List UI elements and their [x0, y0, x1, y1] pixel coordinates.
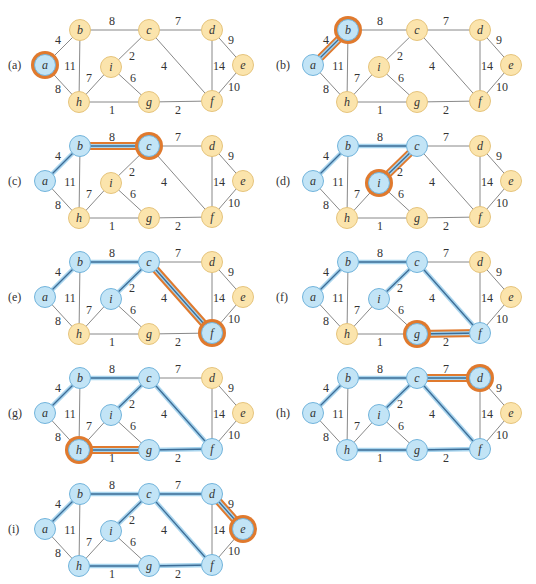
- node-g: g: [407, 440, 428, 461]
- edge-weight: 8: [109, 14, 115, 28]
- edge-weight: 14: [213, 59, 225, 73]
- edge-c-f: 4: [149, 262, 212, 333]
- node-a: a: [35, 519, 56, 540]
- edge-weight: 8: [377, 362, 383, 376]
- node-label: i: [377, 408, 380, 422]
- edge-weight: 2: [443, 103, 449, 117]
- edge-weight: 2: [397, 397, 403, 411]
- node-label: i: [109, 176, 112, 190]
- edge-weight: 14: [213, 291, 225, 305]
- node-label: c: [414, 371, 420, 385]
- edge-weight: 7: [86, 187, 92, 201]
- node-e: e: [501, 287, 522, 308]
- edge-weight: 6: [398, 71, 404, 85]
- node-label: h: [76, 95, 82, 109]
- edge-weight: 8: [55, 546, 61, 560]
- node-label: h: [76, 327, 82, 341]
- edge-weight: 4: [323, 33, 329, 47]
- node-i: i: [369, 57, 390, 78]
- edge-weight: 11: [64, 523, 76, 537]
- node-g: g: [403, 320, 431, 348]
- node-label: d: [477, 255, 484, 269]
- edge-weight: 2: [129, 513, 135, 527]
- edge-c-f: 4: [417, 378, 480, 449]
- node-a: a: [35, 171, 56, 192]
- node-b: b: [334, 16, 362, 44]
- edge-weight: 8: [55, 198, 61, 212]
- edge-c-f: 4: [417, 262, 480, 333]
- edge-weight: 7: [443, 130, 449, 144]
- node-d: d: [466, 364, 494, 392]
- edge-weight: 14: [481, 175, 493, 189]
- node-h: h: [337, 440, 358, 461]
- node-label: b: [345, 23, 351, 37]
- node-d: d: [470, 136, 491, 157]
- panel-label: (g): [8, 406, 22, 420]
- node-label: g: [146, 95, 152, 109]
- edge-weight: 6: [130, 419, 136, 433]
- node-a: a: [303, 171, 324, 192]
- node-g: g: [407, 92, 428, 113]
- node-label: i: [109, 524, 112, 538]
- edge-weight: 8: [109, 478, 115, 492]
- node-label: g: [414, 443, 420, 457]
- panel-label: (d): [276, 174, 290, 188]
- edge-weight: 8: [377, 130, 383, 144]
- edge-weight: 7: [175, 14, 181, 28]
- node-e: e: [233, 287, 254, 308]
- edge-weight: 6: [398, 187, 404, 201]
- edge-weight: 2: [175, 335, 181, 349]
- node-label: h: [344, 211, 350, 225]
- edge-weight: 14: [213, 523, 225, 537]
- edge-weight: 9: [496, 149, 502, 163]
- edge-weight: 10: [496, 80, 508, 94]
- edge-weight: 11: [332, 175, 344, 189]
- edge-weight: 2: [397, 281, 403, 295]
- node-g: g: [407, 208, 428, 229]
- edge-weight: 7: [175, 246, 181, 260]
- node-i: i: [365, 169, 393, 197]
- node-a: a: [303, 403, 324, 424]
- edge-weight: 1: [377, 335, 383, 349]
- node-label: a: [310, 406, 316, 420]
- panel-d: (d)48811724914102176abcdefghi: [276, 130, 522, 233]
- node-label: h: [76, 211, 82, 225]
- edge-weight: 14: [213, 175, 225, 189]
- edge-weight: 8: [55, 82, 61, 96]
- node-label: c: [146, 371, 152, 385]
- edge-weight: 8: [55, 314, 61, 328]
- node-b: b: [70, 368, 91, 389]
- edge-weight: 2: [443, 335, 449, 349]
- node-b: b: [70, 484, 91, 505]
- panel-label: (f): [276, 290, 288, 304]
- node-label: b: [77, 371, 83, 385]
- node-b: b: [70, 20, 91, 41]
- edge-weight: 2: [443, 451, 449, 465]
- node-g: g: [139, 92, 160, 113]
- node-label: e: [240, 174, 246, 188]
- node-label: i: [377, 176, 380, 190]
- edge-weight: 4: [161, 59, 167, 73]
- node-label: b: [345, 255, 351, 269]
- edge-weight: 1: [109, 219, 115, 233]
- edge-weight: 1: [109, 335, 115, 349]
- node-d: d: [202, 252, 223, 273]
- edge-weight: 4: [161, 523, 167, 537]
- node-label: c: [146, 23, 152, 37]
- node-a: a: [31, 51, 59, 79]
- node-e: e: [501, 55, 522, 76]
- node-label: d: [209, 255, 216, 269]
- node-h: h: [337, 324, 358, 345]
- edge-weight: 4: [55, 381, 61, 395]
- edge-weight: 11: [332, 291, 344, 305]
- node-g: g: [139, 324, 160, 345]
- edge-weight: 2: [397, 49, 403, 63]
- edge-weight: 7: [354, 71, 360, 85]
- panel-label: (a): [8, 58, 21, 72]
- node-label: a: [42, 290, 48, 304]
- node-label: h: [344, 327, 350, 341]
- node-label: c: [414, 23, 420, 37]
- panel-g: (g)48811724914102176abcdefghi: [8, 362, 254, 465]
- node-label: b: [77, 23, 83, 37]
- edge-c-f: 4: [149, 494, 212, 565]
